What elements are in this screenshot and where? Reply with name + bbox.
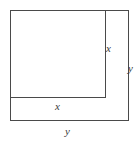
inner-square [10, 10, 105, 97]
outer-square [10, 10, 128, 120]
label-x-right: x [106, 43, 111, 54]
label-y-right: y [128, 63, 133, 74]
label-x-bottom: x [55, 101, 60, 112]
label-y-bottom: y [65, 126, 70, 137]
geometry-figure: x y x y [0, 0, 139, 146]
